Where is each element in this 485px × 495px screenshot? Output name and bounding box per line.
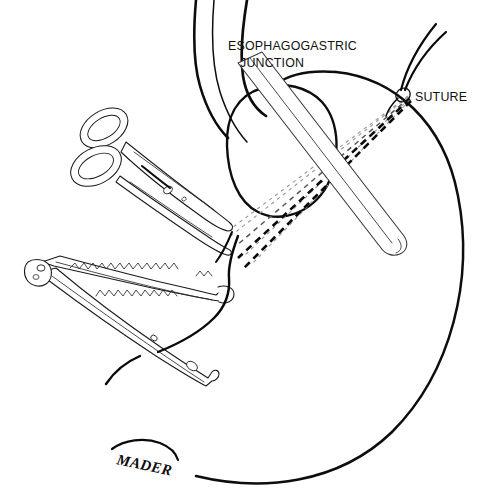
surgical-illustration: MADER ESOPHAGOGASTRIC JUNCTION SUTURE — [0, 0, 485, 495]
suture-label: SUTURE — [415, 90, 467, 104]
clamp-box-lock — [24, 260, 51, 286]
egj-label-line-1: ESOPHAGOGASTRIC — [228, 39, 357, 53]
clamp-pivot-screw — [37, 265, 45, 271]
clamp-rivet — [33, 275, 39, 280]
label-suture: SUTURE — [415, 90, 467, 104]
egj-label-line-2: JUNCTION — [240, 56, 304, 70]
